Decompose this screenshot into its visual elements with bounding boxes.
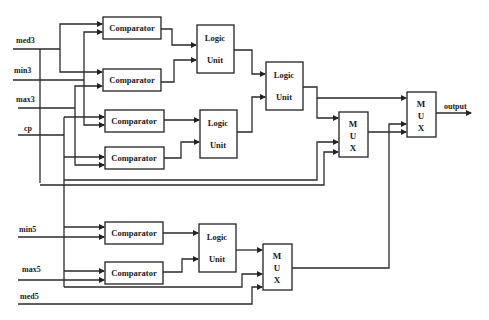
- svg-text:U: U: [418, 111, 425, 121]
- svg-text:U: U: [274, 263, 281, 273]
- block-diagram: med3 min3 max3 cp min5 max5 med5 Compara…: [0, 0, 489, 320]
- wires-loop-to-mux1: [40, 142, 338, 185]
- svg-text:Logic: Logic: [207, 232, 228, 242]
- output-label: output: [444, 102, 467, 111]
- comparator-4: Comparator: [105, 147, 164, 169]
- svg-text:U: U: [350, 131, 357, 141]
- wires-comparators-to-logic-upper: [161, 29, 199, 158]
- svg-text:M: M: [273, 251, 282, 261]
- comparator-6: Comparator: [105, 262, 163, 284]
- svg-text:Comparator: Comparator: [111, 228, 157, 238]
- logic-unit-2: Logic Unit: [200, 110, 237, 158]
- comparator-2: Comparator: [103, 69, 161, 91]
- input-label-cp: cp: [24, 124, 33, 133]
- svg-text:Comparator: Comparator: [111, 116, 157, 126]
- mux-1: M U X: [339, 112, 368, 157]
- svg-text:Comparator: Comparator: [109, 75, 155, 85]
- mux-final: M U X: [407, 92, 436, 137]
- wires-comparators-to-logic-lower: [163, 233, 198, 272]
- svg-text:M: M: [417, 99, 426, 109]
- svg-text:X: X: [418, 123, 425, 133]
- input-label-med5: med5: [20, 292, 39, 301]
- svg-text:Logic: Logic: [205, 33, 226, 43]
- logic-unit-4: Logic Unit: [199, 224, 236, 272]
- svg-text:Logic: Logic: [274, 70, 295, 80]
- input-label-max3: max3: [16, 95, 35, 104]
- svg-text:Comparator: Comparator: [109, 23, 155, 33]
- comparator-1: Comparator: [103, 17, 161, 39]
- input-label-med3: med3: [16, 36, 35, 45]
- input-label-min5: min5: [19, 225, 36, 234]
- input-label-min3: min3: [14, 66, 31, 75]
- logic-unit-1: Logic Unit: [197, 25, 234, 73]
- svg-text:Comparator: Comparator: [111, 153, 157, 163]
- input-label-max5: max5: [22, 265, 41, 274]
- svg-text:Logic: Logic: [208, 118, 229, 128]
- svg-text:M: M: [349, 119, 358, 129]
- mux-2: M U X: [263, 244, 292, 290]
- wires-logic-to-logic3: [234, 50, 265, 132]
- svg-text:Unit: Unit: [276, 92, 292, 102]
- wires-upper-inputs: [13, 24, 104, 287]
- comparator-5: Comparator: [105, 222, 163, 244]
- svg-text:Unit: Unit: [209, 254, 225, 264]
- svg-text:Unit: Unit: [207, 55, 223, 65]
- svg-text:X: X: [350, 143, 357, 153]
- comparator-3: Comparator: [105, 110, 164, 132]
- svg-text:Comparator: Comparator: [111, 268, 157, 278]
- svg-text:X: X: [274, 275, 281, 285]
- svg-text:Unit: Unit: [210, 140, 226, 150]
- logic-unit-3: Logic Unit: [266, 62, 303, 110]
